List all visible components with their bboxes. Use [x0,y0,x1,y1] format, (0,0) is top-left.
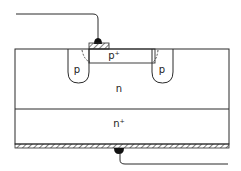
label-n: n [116,83,122,94]
bottom-metallization [15,144,229,148]
p-plus-region [89,49,155,63]
top-metal-pad [89,43,109,49]
guard-ring-right-dashed [153,50,158,62]
bottom-lead-wire [120,154,228,164]
bottom-contact-dot [114,148,124,154]
label-p-plus: p⁺ [108,50,120,61]
label-p-right: p [159,64,165,75]
label-n-plus: n⁺ [113,118,125,129]
label-p-left: p [74,64,80,75]
top-lead-wire [16,14,98,40]
pin-diode-diagram: p⁺ p p n n⁺ [0,0,241,171]
